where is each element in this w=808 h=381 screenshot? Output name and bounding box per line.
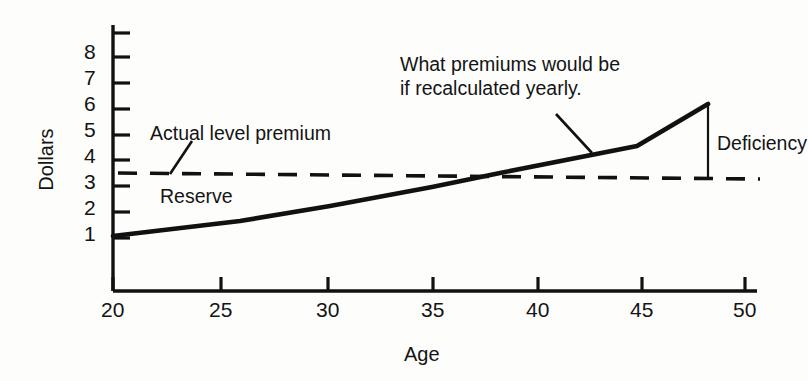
y-axis-ticks: [113, 33, 130, 238]
y-tick-label-2: 2: [84, 197, 96, 218]
annotation-deficiency: Deficiency: [717, 132, 807, 155]
x-tick-label-25: 25: [209, 299, 232, 320]
annotation-what-premiums-line1: What premiums would be: [400, 53, 620, 76]
x-tick-label-35: 35: [421, 299, 444, 320]
x-tick-label-40: 40: [526, 299, 549, 320]
leader-line-recalculated-yearly: [556, 114, 592, 153]
x-tick-label-50: 50: [733, 299, 756, 320]
series-actual-level-premium: [118, 173, 760, 179]
y-tick-label-6: 6: [84, 93, 96, 114]
annotation-reserve: Reserve: [160, 185, 233, 208]
annotation-what-premiums-line2: if recalculated yearly.: [400, 77, 582, 100]
y-tick-label-8: 8: [84, 41, 96, 62]
x-axis-title: Age: [404, 343, 440, 366]
x-tick-label-20: 20: [101, 299, 124, 320]
y-tick-label-7: 7: [84, 67, 96, 88]
y-tick-label-4: 4: [84, 145, 96, 166]
annotation-actual-level-premium: Actual level premium: [150, 122, 331, 145]
x-tick-label-45: 45: [630, 299, 653, 320]
y-tick-label-5: 5: [84, 119, 96, 140]
y-axis-title: Dollars: [35, 110, 58, 210]
y-tick-label-1: 1: [84, 223, 96, 244]
x-tick-label-30: 30: [316, 299, 339, 320]
x-axis-ticks: [113, 277, 745, 291]
leader-line-actual-level-premium: [170, 141, 192, 174]
chart-figure: 8 7 6 5 4 3 2 1 20 25 30 35 40 45 50 Dol…: [0, 0, 808, 381]
y-tick-label-3: 3: [84, 171, 96, 192]
